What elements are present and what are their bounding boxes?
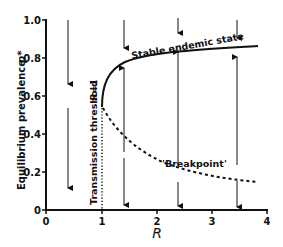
svg-text:Equilibrium prevalence: Equilibrium prevalence — [16, 60, 27, 190]
y-tick-label: 0 — [34, 205, 41, 216]
x-tick-label: 0 — [43, 216, 50, 227]
x-tick-label: 4 — [264, 216, 271, 227]
svg-text:p*: p* — [16, 50, 27, 64]
threshold-label: Transmission threshold R=1 — [88, 79, 99, 205]
breakpoint-label: 'Breakpoint' — [162, 158, 227, 169]
stable-endemic-label: Stable endemic state — [130, 30, 244, 61]
stable-endemic-curve — [102, 46, 258, 107]
x-tick-label: 3 — [209, 216, 216, 227]
breakpoint-curve — [103, 108, 258, 182]
bifurcation-chart: 1.0 0.8 0.6 0.4 0.2 0 0 1 2 3 4 R Equili… — [0, 0, 283, 247]
y-axis-title: Equilibrium prevalence p* — [16, 50, 27, 190]
svg-text:R=1: R=1 — [88, 79, 99, 101]
x-axis: 0 1 2 3 4 R — [43, 210, 271, 241]
y-tick-label: 1.0 — [23, 15, 41, 26]
x-tick-label: 1 — [99, 216, 106, 227]
x-axis-title: R — [152, 225, 162, 241]
